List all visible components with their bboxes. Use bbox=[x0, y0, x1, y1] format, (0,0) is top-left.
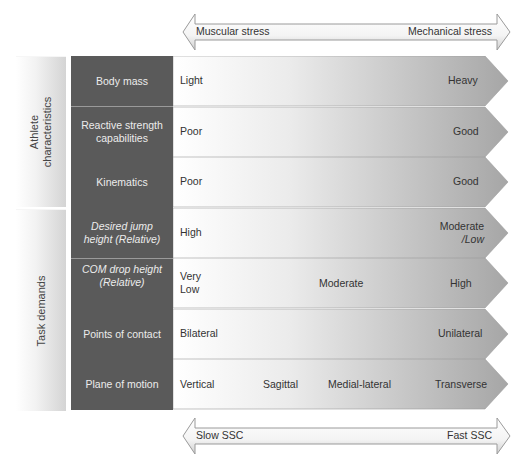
group-label-task: Task demands bbox=[35, 275, 48, 346]
value-medial-lateral: Medial-lateral bbox=[328, 378, 391, 391]
value-line: Very bbox=[180, 270, 201, 283]
label-text: Desired jump height (Relative) bbox=[79, 220, 165, 246]
value-line: Moderate bbox=[439, 220, 484, 233]
value-poor: Poor bbox=[180, 175, 202, 188]
label-kinematics: Kinematics bbox=[71, 157, 173, 207]
value-poor: Poor bbox=[180, 125, 202, 138]
label-part: Relative bbox=[103, 276, 141, 288]
row-points-of-contact: Bilateral Unilateral bbox=[173, 309, 509, 359]
group-task-demands: Task demands bbox=[16, 209, 66, 411]
label-text: COM drop height (Relative) bbox=[76, 263, 168, 289]
row-com-drop-height: Very Low Moderate High bbox=[173, 258, 509, 308]
group-label-athlete: Athlete characteristics bbox=[28, 97, 54, 167]
value-line: Low bbox=[180, 283, 201, 296]
label-text: Kinematics bbox=[96, 176, 147, 189]
row-desired-jump-height: High Moderate /Low bbox=[173, 208, 509, 258]
value-high: High bbox=[180, 226, 202, 239]
label-desired-jump-height: Desired jump height (Relative) bbox=[71, 208, 173, 258]
value-transverse: Transverse bbox=[435, 378, 487, 391]
value-moderate-low: Moderate /Low bbox=[439, 220, 484, 246]
value-good: Good bbox=[453, 125, 479, 138]
value-vertical: Vertical bbox=[180, 378, 214, 391]
label-plane-of-motion: Plane of motion bbox=[71, 359, 173, 409]
mechanical-stress-label: Mechanical stress bbox=[408, 25, 492, 37]
value-line: /Low bbox=[439, 233, 484, 246]
value-bilateral: Bilateral bbox=[180, 327, 218, 340]
label-com-drop-height: COM drop height (Relative) bbox=[71, 258, 173, 309]
value-very-low: Very Low bbox=[180, 270, 201, 296]
label-part: Relative bbox=[119, 233, 157, 245]
label-reactive-strength: Reactive strength capabilities bbox=[71, 106, 173, 157]
value-heavy: Heavy bbox=[448, 74, 478, 87]
label-body-mass: Body mass bbox=[71, 56, 173, 106]
row-body-mass: Light Heavy bbox=[173, 56, 509, 106]
value-unilateral: Unilateral bbox=[438, 327, 482, 340]
label-text: Reactive strength capabilities bbox=[76, 119, 168, 145]
muscular-stress-label: Muscular stress bbox=[196, 25, 270, 37]
slow-ssc-label: Slow SSC bbox=[196, 429, 243, 441]
row-reactive-strength: Poor Good bbox=[173, 107, 509, 157]
label-part: ) bbox=[141, 276, 145, 288]
value-high: High bbox=[450, 277, 472, 290]
label-text: Body mass bbox=[96, 75, 148, 88]
value-moderate: Moderate bbox=[319, 277, 363, 290]
group-label-line1: Task demands bbox=[35, 275, 48, 346]
fast-ssc-label: Fast SSC bbox=[447, 429, 492, 441]
top-double-arrow: Muscular stress Mechanical stress bbox=[182, 13, 512, 51]
value-sagittal: Sagittal bbox=[263, 378, 298, 391]
group-label-line2: characteristics bbox=[41, 97, 54, 167]
value-good: Good bbox=[453, 175, 479, 188]
group-athlete-characteristics: Athlete characteristics bbox=[16, 56, 66, 207]
row-kinematics: Poor Good bbox=[173, 157, 509, 207]
value-light: Light bbox=[180, 74, 203, 87]
label-points-of-contact: Points of contact bbox=[71, 309, 173, 359]
factor-label-column: Body mass Reactive strength capabilities… bbox=[71, 56, 173, 410]
bottom-double-arrow: Slow SSC Fast SSC bbox=[182, 417, 512, 455]
label-part: ) bbox=[157, 233, 161, 245]
row-plane-of-motion: Vertical Sagittal Medial-lateral Transve… bbox=[173, 359, 509, 409]
label-text: Points of contact bbox=[83, 328, 161, 341]
label-text: Plane of motion bbox=[86, 378, 159, 391]
group-label-line1: Athlete bbox=[28, 97, 41, 167]
